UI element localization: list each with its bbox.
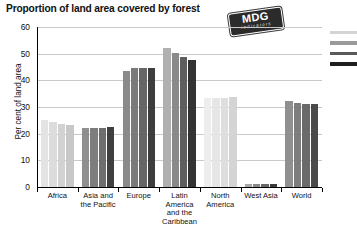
bar [49, 122, 56, 187]
bar [58, 124, 65, 187]
bar [123, 71, 130, 187]
bar [66, 125, 73, 187]
x-axis-label: Africa [37, 192, 78, 228]
y-tick-label: 30 [0, 102, 30, 112]
bar [311, 104, 318, 187]
bar [107, 127, 114, 187]
x-axis-labels: AfricaAsia and the PacificEuropeLatin Am… [37, 192, 322, 228]
bar [90, 128, 97, 187]
y-tick-label: 20 [0, 129, 30, 139]
bar [302, 104, 309, 187]
bar [229, 97, 236, 187]
bar-groups [37, 27, 322, 187]
bar-set [118, 27, 159, 187]
bar-group [159, 27, 200, 187]
y-tick-label: 50 [0, 49, 30, 59]
legend-swatch [330, 52, 357, 55]
y-tick-label: 10 [0, 155, 30, 165]
x-axis-label: Latin America and the Caribbean [159, 192, 200, 228]
bar-group [241, 27, 282, 187]
y-tick-label: 0 [0, 182, 30, 192]
bar [41, 120, 48, 187]
bar [82, 128, 89, 187]
bar [212, 98, 219, 187]
bar-group [281, 27, 322, 187]
y-axis-line [37, 27, 38, 188]
bar-group [78, 27, 119, 187]
bar-set [159, 27, 200, 187]
bar [294, 103, 301, 187]
x-axis-line [37, 187, 322, 188]
bar-set [241, 27, 282, 187]
bar [204, 98, 211, 187]
chart-title: Proportion of land area covered by fores… [6, 3, 200, 14]
bar [131, 68, 138, 187]
plot-area [37, 27, 322, 187]
bar-set [37, 27, 78, 187]
x-axis-label: West Asia [241, 192, 282, 228]
bar-set [200, 27, 241, 187]
x-axis-label: Europe [118, 192, 159, 228]
bar-set [78, 27, 119, 187]
bar-group [37, 27, 78, 187]
bar [172, 53, 179, 187]
x-axis-label: Asia and the Pacific [78, 192, 119, 228]
bar-set [281, 27, 322, 187]
y-tick-label: 40 [0, 75, 30, 85]
bar [221, 98, 228, 187]
x-axis-label: World [281, 192, 322, 228]
legend-swatch [330, 62, 357, 65]
bar [99, 128, 106, 187]
bar-group [118, 27, 159, 187]
bar [180, 57, 187, 187]
x-tick [322, 188, 323, 192]
legend [330, 31, 357, 73]
bar [188, 60, 195, 187]
y-tick-label: 60 [0, 22, 30, 32]
bar [139, 68, 146, 187]
legend-swatch [330, 41, 357, 44]
legend-swatch [330, 31, 357, 34]
bar-group [200, 27, 241, 187]
chart-root: Proportion of land area covered by fores… [0, 0, 357, 228]
bar [285, 101, 292, 187]
x-axis-label: North America [200, 192, 241, 228]
bar [163, 48, 170, 187]
bar [148, 68, 155, 187]
